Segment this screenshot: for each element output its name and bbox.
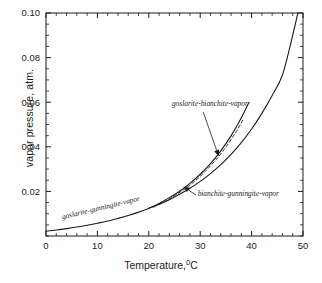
x-axis-title: Temperature,0C <box>0 258 322 271</box>
y-axis-title: vapor pressure, atm. <box>23 33 35 203</box>
curve-label: goslarite-gunningite-vapor <box>61 194 141 221</box>
x-tick-label: 30 <box>195 240 206 251</box>
vapor-pressure-plot: 010203040500.020.040.060.080.10 goslarit… <box>0 0 322 283</box>
x-tick-label: 10 <box>92 240 103 251</box>
annotation-arrowhead <box>214 149 219 156</box>
x-tick-label: 40 <box>246 240 257 251</box>
data-curves <box>46 13 298 231</box>
axes-frame <box>46 13 303 236</box>
x-axis-unit: C <box>190 259 198 271</box>
curve-label: bianchite-gunningite-vapor <box>198 189 279 198</box>
plot-frame <box>46 13 303 236</box>
y-tick-label: 0.10 <box>22 7 41 18</box>
x-tick-label: 0 <box>43 240 48 251</box>
annotation-leader-line <box>203 112 216 150</box>
curve-solid <box>46 13 298 231</box>
x-tick-label: 20 <box>144 240 155 251</box>
annotation-leader-line <box>188 190 196 195</box>
x-tick-label: 50 <box>298 240 309 251</box>
axis-ticks <box>46 13 303 236</box>
chart-figure: 010203040500.020.040.060.080.10 goslarit… <box>0 0 322 283</box>
curve-annotations: goslarite-bianchite-vaporbianchite-gunni… <box>61 99 279 222</box>
curve-label: goslarite-bianchite-vapor <box>172 99 248 108</box>
x-axis-title-text: Temperature, <box>124 259 186 271</box>
y-axis-title-text: vapor pressure, atm. <box>23 69 35 167</box>
